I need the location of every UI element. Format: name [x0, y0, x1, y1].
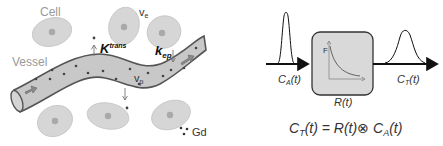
efflux-arrow-icon [125, 88, 128, 109]
residue-function-box: F [312, 32, 373, 95]
output-arrow [373, 30, 437, 64]
convolution-model: F CA(t) R(t) CT(t) CT(t) = R(t)⊗ CA(t) [266, 12, 437, 138]
gd-legend-icon [180, 127, 189, 136]
gd-label: Gd [192, 126, 207, 138]
ktrans-label: Ktrans [100, 41, 127, 56]
cell [85, 100, 131, 133]
box-label: R(t) [334, 96, 353, 108]
diagram-canvas: Cell ve Vessel Ktrans kep vp Gd [0, 0, 443, 146]
output-label: CT(t) [397, 73, 420, 86]
input-arrow [266, 12, 308, 64]
cell [142, 10, 186, 53]
ktrans-arrow-icon [93, 37, 96, 56]
input-label: CA(t) [278, 73, 301, 86]
tissue-model: Cell ve Vessel Ktrans kep vp Gd [9, 4, 207, 142]
cell [32, 100, 77, 142]
ve-label: ve [139, 6, 149, 19]
box-axis-label: F [323, 46, 328, 55]
vessel-label: Vessel [12, 55, 47, 69]
cell-label: Cell [40, 5, 61, 19]
convolution-equation: CT(t) = R(t)⊗ CA(t) [289, 120, 402, 138]
